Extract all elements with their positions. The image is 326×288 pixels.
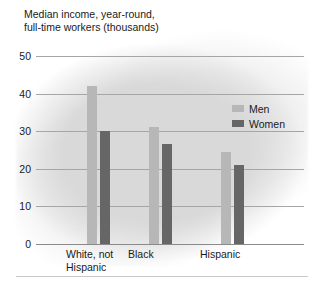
legend-item-women: Women bbox=[232, 116, 285, 131]
bottom-rule bbox=[16, 276, 308, 277]
x-axis-category-label: Hispanic bbox=[200, 248, 272, 261]
y-axis-tick-label: 10 bbox=[19, 200, 31, 212]
legend-swatch-women-icon bbox=[232, 120, 244, 127]
chart-figure: Median income, year-round, full-time wor… bbox=[0, 0, 326, 288]
bar-men-0 bbox=[87, 86, 97, 244]
y-axis-tick-label: 30 bbox=[19, 125, 31, 137]
gridline bbox=[36, 56, 304, 57]
plot-area: 01020304050 White, not HispanicBlackHisp… bbox=[36, 56, 304, 244]
bar-women-2 bbox=[234, 165, 244, 244]
y-axis-tick-label: 40 bbox=[19, 88, 31, 100]
bar-men-2 bbox=[221, 152, 231, 244]
y-axis-tick-label: 50 bbox=[19, 50, 31, 62]
legend-label-men: Men bbox=[249, 103, 269, 115]
gridline bbox=[36, 94, 304, 95]
bar-women-0 bbox=[100, 131, 110, 244]
y-axis-tick-label: 20 bbox=[19, 163, 31, 175]
bar-men-1 bbox=[149, 127, 159, 244]
bar-women-1 bbox=[162, 144, 172, 244]
legend-label-women: Women bbox=[249, 118, 285, 130]
chart-legend: Men Women bbox=[232, 101, 285, 131]
x-axis-category-label: Black bbox=[128, 248, 200, 261]
chart-title: Median income, year-round, full-time wor… bbox=[24, 8, 304, 34]
gridline bbox=[36, 131, 304, 132]
axis-baseline bbox=[36, 244, 304, 245]
legend-swatch-men-icon bbox=[232, 105, 244, 112]
legend-item-men: Men bbox=[232, 101, 285, 116]
y-axis-tick-label: 0 bbox=[25, 238, 31, 250]
